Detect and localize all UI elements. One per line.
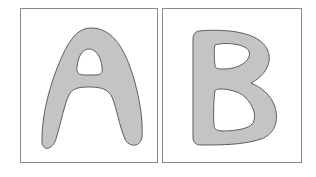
letter-card-a: A	[20, 8, 158, 163]
letter-a-glyph	[21, 9, 157, 162]
letter-card-b: B	[162, 8, 302, 163]
letter-b-glyph	[163, 9, 301, 162]
